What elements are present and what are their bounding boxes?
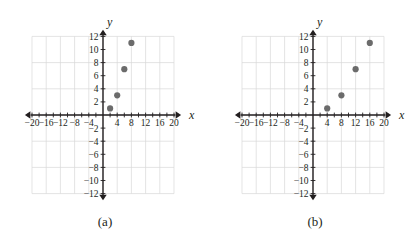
y-tick-label: −2 bbox=[88, 124, 98, 134]
x-tick-label: −16 bbox=[39, 118, 54, 128]
y-axis-arrow-down bbox=[99, 195, 107, 201]
x-tick-label: 12 bbox=[141, 118, 151, 128]
x-tick-label: −8 bbox=[70, 118, 80, 128]
chart-panel-b: −20−16−12−8−44812162012108642−2−4−6−8−10… bbox=[210, 0, 420, 241]
x-tick-label: −20 bbox=[25, 118, 40, 128]
y-axis-arrow-up bbox=[309, 30, 317, 35]
figure-container: −20−16−12−8−44812162012108642−2−4−6−8−10… bbox=[0, 0, 420, 241]
axes-b bbox=[235, 30, 391, 200]
y-tick-label: −8 bbox=[88, 163, 98, 173]
x-tick-label: −12 bbox=[53, 118, 68, 128]
data-point bbox=[121, 66, 127, 72]
y-tick-label: −4 bbox=[298, 137, 308, 147]
scatter-plot-a: −20−16−12−8−44812162012108642−2−4−6−8−10… bbox=[0, 0, 210, 215]
scatter-plot-b: −20−16−12−8−44812162012108642−2−4−6−8−10… bbox=[210, 0, 420, 215]
y-tick-label: 8 bbox=[94, 58, 99, 68]
y-tick-label: 10 bbox=[89, 45, 99, 55]
x-tick-label: 20 bbox=[379, 118, 389, 128]
x-tick-label: 8 bbox=[129, 118, 134, 128]
y-tick-label: 6 bbox=[94, 71, 99, 81]
data-point bbox=[367, 40, 373, 46]
y-tick-label: −10 bbox=[294, 176, 309, 186]
y-tick-label: 4 bbox=[304, 84, 309, 94]
panel-caption-b: (b) bbox=[210, 214, 420, 230]
x-axis-label-a: x bbox=[188, 108, 195, 122]
data-point bbox=[338, 92, 344, 98]
x-tick-label: 20 bbox=[169, 118, 179, 128]
y-tick-label: −2 bbox=[298, 124, 308, 134]
panel-caption-a: (a) bbox=[0, 214, 210, 230]
y-tick-label: 10 bbox=[299, 45, 309, 55]
y-tick-label: −4 bbox=[88, 137, 98, 147]
y-tick-label: −10 bbox=[84, 176, 99, 186]
y-tick-label: −6 bbox=[88, 150, 98, 160]
data-point bbox=[107, 105, 113, 111]
x-tick-label: −8 bbox=[280, 118, 290, 128]
x-tick-label: 12 bbox=[351, 118, 361, 128]
x-tick-label: −12 bbox=[263, 118, 278, 128]
data-point bbox=[128, 40, 134, 46]
y-tick-label: −8 bbox=[298, 163, 308, 173]
x-tick-label: 16 bbox=[155, 118, 165, 128]
data-points-a bbox=[107, 40, 134, 112]
x-tick-label: −16 bbox=[249, 118, 264, 128]
y-axis-arrow-down bbox=[309, 195, 317, 201]
y-tick-label: −12 bbox=[294, 189, 309, 199]
y-tick-label: 12 bbox=[89, 32, 99, 42]
y-axis-label-b: y bbox=[316, 15, 323, 29]
data-point bbox=[324, 105, 330, 111]
y-tick-label: 6 bbox=[304, 71, 309, 81]
x-tick-label: 4 bbox=[115, 118, 120, 128]
y-tick-label: −12 bbox=[84, 189, 99, 199]
x-tick-label: 16 bbox=[365, 118, 375, 128]
y-tick-label: 12 bbox=[299, 32, 309, 42]
data-point bbox=[114, 92, 120, 98]
y-axis-label-a: y bbox=[106, 15, 113, 29]
axes-a bbox=[25, 30, 181, 200]
x-tick-label: 8 bbox=[339, 118, 344, 128]
y-tick-label: 2 bbox=[304, 97, 309, 107]
x-tick-label: −20 bbox=[235, 118, 250, 128]
y-tick-label: −6 bbox=[298, 150, 308, 160]
y-tick-label: 8 bbox=[304, 58, 309, 68]
data-points-b bbox=[324, 40, 373, 112]
y-axis-arrow-up bbox=[99, 30, 107, 35]
y-tick-label: 4 bbox=[94, 84, 99, 94]
y-tick-label: 2 bbox=[94, 97, 99, 107]
data-point bbox=[353, 66, 359, 72]
x-tick-label: 4 bbox=[325, 118, 330, 128]
chart-panel-a: −20−16−12−8−44812162012108642−2−4−6−8−10… bbox=[0, 0, 210, 241]
x-axis-label-b: x bbox=[398, 108, 405, 122]
